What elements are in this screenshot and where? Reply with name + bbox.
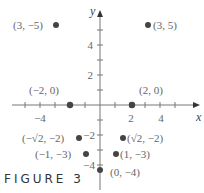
y-tick-label: 2: [88, 69, 94, 81]
y-tick-label: 4: [88, 39, 94, 51]
point-marker: [76, 135, 82, 141]
point-label: (−2, 0): [29, 84, 59, 97]
point-marker: [67, 102, 73, 108]
point-label: (0, −4): [110, 166, 140, 179]
point-label: (3, −5): [13, 19, 43, 32]
x-tick-label: 4: [158, 112, 164, 124]
point-label: (1, −3): [120, 148, 150, 161]
point-label: (3, 5): [153, 19, 177, 32]
point-marker: [97, 167, 103, 173]
x-tick-label: 2: [128, 112, 134, 124]
y-tick-label: −2: [83, 129, 95, 141]
point-label: (2, 0): [139, 84, 163, 97]
point-marker: [145, 22, 151, 28]
y-axis-arrow-icon: [97, 10, 103, 17]
x-tick-label: −4: [34, 112, 46, 124]
point-marker: [53, 22, 59, 28]
point-marker: [83, 151, 89, 157]
figure-caption: FIGURE 3: [4, 172, 84, 186]
y-axis-label: y: [89, 4, 96, 18]
point-marker: [113, 151, 119, 157]
y-tick-label: −4: [83, 159, 95, 171]
coordinate-plane: −4 2 4 4 2 −2 −4 x y (3, −5) (3, 5) (−2,…: [0, 0, 204, 193]
point-label: (−√2, −2): [22, 132, 65, 145]
point-label: (√2, −2): [127, 132, 163, 145]
point-marker: [129, 102, 135, 108]
x-axis-label: x: [195, 110, 202, 124]
point-marker: [120, 135, 126, 141]
point-label: (−1, −3): [35, 148, 72, 161]
x-axis-arrow-icon: [193, 102, 200, 108]
